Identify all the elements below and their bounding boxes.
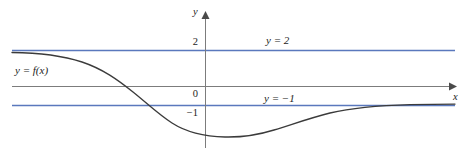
asymptote-label-y-equals-minus-1: y = −1 [264, 93, 295, 104]
y-tick-label-minus-1: −1 [174, 108, 198, 119]
x-axis-label: x [453, 92, 458, 103]
y-tick-label-2: 2 [178, 37, 198, 48]
asymptote-label-y-equals-2: y = 2 [266, 35, 289, 46]
curve-label-y-equals-f-of-x: y = f(x) [15, 65, 48, 76]
y-axis-arrowhead [202, 11, 210, 19]
x-axis-arrowhead [449, 83, 457, 91]
origin-label-0: 0 [178, 89, 198, 100]
y-axis-label: y [193, 7, 198, 18]
function-graph-figure: y x 2 0 −1 y = f(x) y = 2 y = −1 [0, 0, 466, 150]
function-curve [12, 53, 455, 138]
plot-canvas [0, 0, 466, 150]
